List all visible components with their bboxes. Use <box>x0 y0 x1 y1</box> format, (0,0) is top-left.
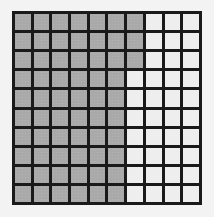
unshaded-cell <box>127 148 143 164</box>
unshaded-cell <box>183 90 199 106</box>
shaded-cell <box>15 129 31 145</box>
shaded-cell <box>127 52 143 68</box>
shaded-cell <box>90 186 106 202</box>
shaded-cell <box>108 186 124 202</box>
shaded-cell <box>15 33 31 49</box>
shaded-cell <box>34 148 50 164</box>
shaded-cell <box>108 90 124 106</box>
shaded-cell <box>71 14 87 30</box>
shaded-cell <box>71 129 87 145</box>
shaded-cell <box>34 186 50 202</box>
unshaded-cell <box>146 90 162 106</box>
shaded-cell <box>90 52 106 68</box>
shaded-cell <box>108 33 124 49</box>
shaded-cell <box>108 167 124 183</box>
unshaded-cell <box>165 167 181 183</box>
shaded-cell <box>15 90 31 106</box>
shaded-cell <box>71 71 87 87</box>
unshaded-cell <box>127 167 143 183</box>
shaded-cell <box>15 14 31 30</box>
unshaded-cell <box>165 186 181 202</box>
shaded-cell <box>52 129 68 145</box>
shaded-cell <box>52 186 68 202</box>
unshaded-cell <box>165 14 181 30</box>
shaded-cell <box>108 148 124 164</box>
unshaded-cell <box>146 148 162 164</box>
unshaded-cell <box>146 52 162 68</box>
unshaded-cell <box>127 90 143 106</box>
shaded-cell <box>90 167 106 183</box>
unshaded-cell <box>127 129 143 145</box>
unshaded-cell <box>183 14 199 30</box>
shaded-cell <box>71 186 87 202</box>
unshaded-cell <box>146 33 162 49</box>
shaded-cell <box>90 33 106 49</box>
shaded-cell <box>52 14 68 30</box>
shaded-cell <box>90 129 106 145</box>
shaded-cell <box>90 148 106 164</box>
unshaded-cell <box>127 186 143 202</box>
unshaded-cell <box>127 110 143 126</box>
shaded-cell <box>34 90 50 106</box>
shaded-cell <box>15 110 31 126</box>
shaded-cell <box>34 110 50 126</box>
shaded-cell <box>52 110 68 126</box>
unshaded-cell <box>146 14 162 30</box>
shaded-cell <box>52 71 68 87</box>
shaded-cell <box>108 110 124 126</box>
shaded-cell <box>52 167 68 183</box>
shaded-cell <box>90 110 106 126</box>
shaded-cell <box>127 14 143 30</box>
unshaded-cell <box>183 110 199 126</box>
shaded-cell <box>34 33 50 49</box>
shaded-cell <box>34 167 50 183</box>
shaded-cell <box>52 148 68 164</box>
unshaded-cell <box>165 33 181 49</box>
shaded-cell <box>15 167 31 183</box>
diagram-canvas <box>0 0 214 217</box>
shaded-cell <box>90 71 106 87</box>
unshaded-cell <box>165 110 181 126</box>
shaded-cell <box>127 33 143 49</box>
unshaded-cell <box>183 186 199 202</box>
unshaded-cell <box>165 148 181 164</box>
shaded-cell <box>34 129 50 145</box>
shaded-cell <box>34 52 50 68</box>
shaded-cell <box>90 90 106 106</box>
unshaded-cell <box>183 71 199 87</box>
shaded-cell <box>108 129 124 145</box>
shaded-cell <box>108 14 124 30</box>
unshaded-cell <box>146 167 162 183</box>
unshaded-cell <box>146 110 162 126</box>
shaded-cell <box>71 52 87 68</box>
unshaded-cell <box>165 90 181 106</box>
unshaded-cell <box>165 71 181 87</box>
unshaded-cell <box>165 52 181 68</box>
shaded-cell <box>52 52 68 68</box>
unshaded-cell <box>183 167 199 183</box>
shaded-cell <box>71 110 87 126</box>
unshaded-cell <box>146 186 162 202</box>
shaded-cell <box>34 71 50 87</box>
unshaded-cell <box>183 129 199 145</box>
shaded-cell <box>71 90 87 106</box>
shaded-cell <box>52 90 68 106</box>
unshaded-cell <box>146 71 162 87</box>
shaded-cell <box>15 186 31 202</box>
unshaded-cell <box>183 148 199 164</box>
shaded-cell <box>90 14 106 30</box>
shaded-cell <box>34 14 50 30</box>
shaded-cell <box>15 148 31 164</box>
shaded-cell <box>15 71 31 87</box>
shaded-cell <box>108 52 124 68</box>
unshaded-cell <box>146 129 162 145</box>
shaded-cell <box>71 33 87 49</box>
unshaded-cell <box>127 71 143 87</box>
shaded-cell <box>15 52 31 68</box>
shaded-cell <box>71 148 87 164</box>
unshaded-cell <box>183 33 199 49</box>
shaded-cell <box>71 167 87 183</box>
shaded-cell <box>52 33 68 49</box>
hundred-grid <box>12 11 202 205</box>
shaded-cell <box>108 71 124 87</box>
